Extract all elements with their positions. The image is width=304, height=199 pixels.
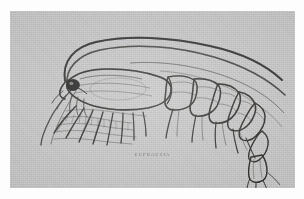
page: EUPHAUSIA (0, 0, 304, 199)
krill-illustration (10, 11, 295, 188)
illustration-plate: EUPHAUSIA (10, 11, 295, 188)
figure-caption: EUPHAUSIA (10, 152, 295, 157)
